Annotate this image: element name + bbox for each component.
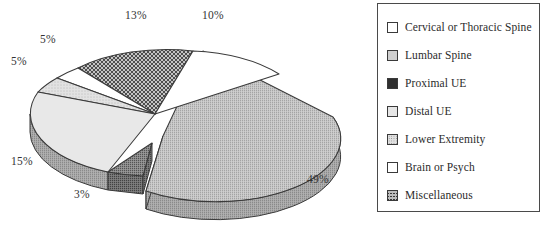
- data-label-15: 15%: [11, 155, 33, 167]
- legend-item-lower-extremity: Lower Extremity: [387, 126, 539, 153]
- data-label-5-brain: 5%: [40, 33, 56, 45]
- legend-swatch-icon-distal-ue: [387, 106, 398, 117]
- legend-label-distal-ue: Distal UE: [405, 106, 452, 118]
- legend-swatch-icon-lower-extremity: [387, 134, 398, 145]
- chart-legend: Cervical or Thoracic Spine Lumbar Spine …: [377, 3, 540, 212]
- legend-item-distal-ue: Distal UE: [387, 98, 539, 125]
- legend-swatch-icon-proximal-ue: [387, 78, 398, 89]
- data-label-10: 10%: [202, 9, 224, 21]
- legend-label-lower-extremity: Lower Extremity: [405, 134, 485, 146]
- data-label-3: 3%: [74, 188, 90, 200]
- legend-item-proximal-ue: Proximal UE: [387, 70, 539, 97]
- legend-swatch-icon-lumbar-spine: [387, 50, 398, 61]
- legend-swatch-icon-miscellaneous: [387, 190, 398, 201]
- data-label-49: 49%: [307, 173, 329, 185]
- data-label-5-lower: 5%: [11, 55, 27, 67]
- legend-label-miscellaneous: Miscellaneous: [405, 190, 473, 202]
- legend-item-brain-or-psych: Brain or Psych: [387, 154, 539, 181]
- pie-chart: 10% 13% 5% 5% 15% 3% 49%: [0, 0, 370, 230]
- legend-swatch-icon-brain-or-psych: [387, 162, 398, 173]
- legend-label-cervical-or-thoracic-spine: Cervical or Thoracic Spine: [405, 22, 532, 34]
- legend-item-miscellaneous: Miscellaneous: [387, 182, 539, 209]
- legend-swatch-icon-cervical-or-thoracic-spine: [387, 22, 398, 33]
- legend-item-lumbar-spine: Lumbar Spine: [387, 42, 539, 69]
- legend-label-proximal-ue: Proximal UE: [405, 78, 466, 90]
- data-label-13: 13%: [125, 9, 147, 21]
- legend-label-lumbar-spine: Lumbar Spine: [405, 50, 472, 62]
- legend-label-brain-or-psych: Brain or Psych: [405, 162, 475, 174]
- legend-item-cervical-or-thoracic-spine: Cervical or Thoracic Spine: [387, 14, 539, 41]
